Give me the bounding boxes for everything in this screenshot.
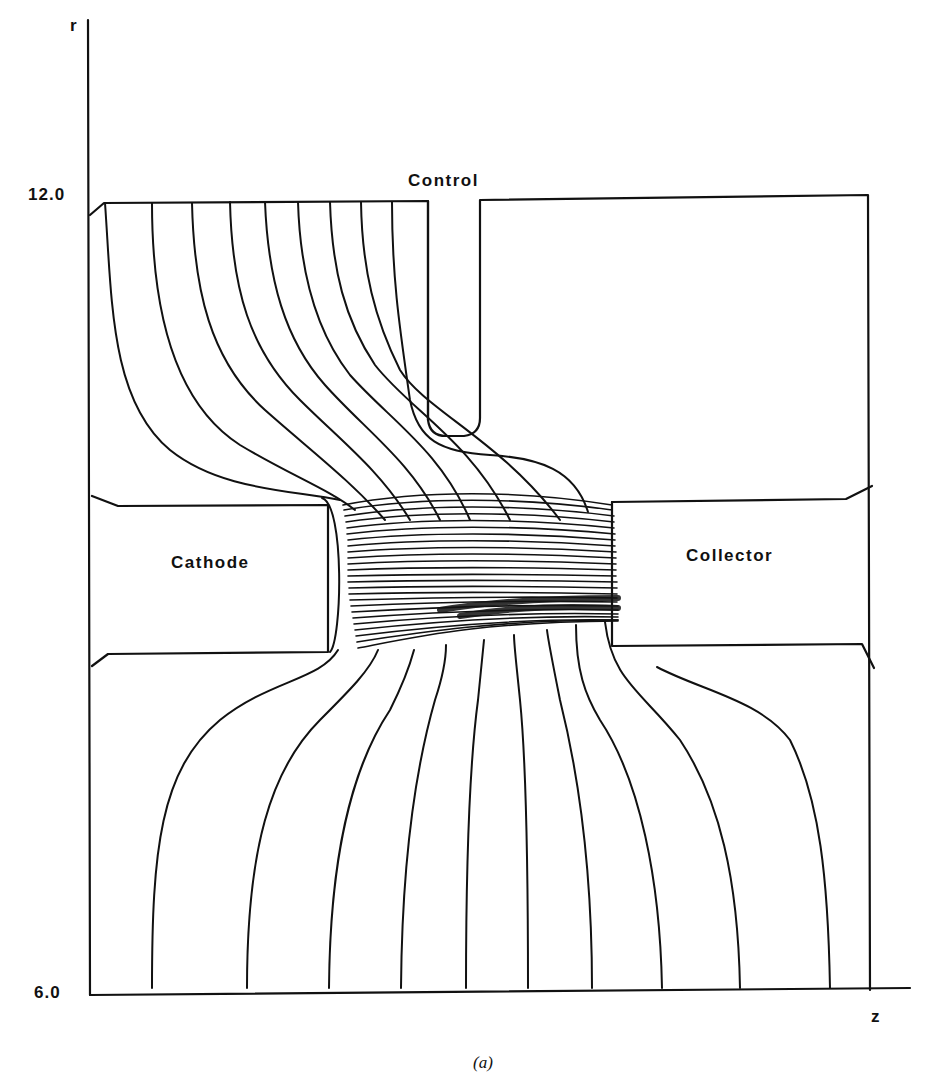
collector-label: Collector [686, 546, 773, 566]
r-tick-6: 6.0 [34, 983, 61, 1003]
figure-caption: (a) [473, 1053, 493, 1073]
r-axis-label: r [70, 16, 78, 36]
r-axis-line [88, 20, 90, 995]
control-label: Control [408, 171, 479, 191]
electrode-field-plot: r 12.0 6.0 z Control Cathode Collector (… [0, 0, 937, 1092]
collector-electrode [612, 486, 872, 502]
z-axis-label: z [871, 1007, 881, 1027]
z-axis-line [90, 988, 910, 995]
r-tick-12: 12.0 [28, 185, 65, 205]
equipotentials-lower [152, 622, 830, 988]
equipotentials-upper [105, 202, 588, 520]
cathode-side-contour [322, 498, 339, 652]
cathode-electrode [92, 496, 328, 666]
field-plot-svg [0, 0, 937, 1092]
collector-electrode-body [612, 502, 874, 668]
cathode-label: Cathode [171, 553, 250, 573]
